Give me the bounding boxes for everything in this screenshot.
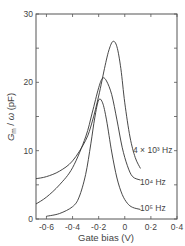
x-tick-label: -0·4 xyxy=(65,222,80,232)
plot-frame: -0·6-0·4-0·200·20·40102030 xyxy=(24,9,184,232)
series-label: 10⁴ Hz xyxy=(140,177,166,187)
x-tick-label: 0 xyxy=(122,222,127,232)
plot-border xyxy=(36,14,177,219)
x-tick-label: -0·2 xyxy=(91,222,106,232)
y-tick-label: 10 xyxy=(24,146,34,156)
y-axis-label: Gm / ω (pF) xyxy=(5,93,17,141)
y-tick-label: 0 xyxy=(28,214,33,224)
x-tick-label: 0·2 xyxy=(145,222,158,232)
y-tick-label: 20 xyxy=(24,77,34,87)
chart: -0·6-0·4-0·200·20·40102030 4 × 10³ Hz10⁴… xyxy=(0,0,185,246)
curve-labels: 4 × 10³ Hz10⁴ Hz10⁵ Hz xyxy=(133,145,172,213)
svg-text:Gm / ω (pF): Gm / ω (pF) xyxy=(5,93,17,141)
series-label: 4 × 10³ Hz xyxy=(133,145,172,155)
curves xyxy=(36,41,140,216)
x-tick-label: -0·6 xyxy=(39,222,54,232)
series-label: 10⁵ Hz xyxy=(140,203,166,213)
series-line xyxy=(36,78,140,204)
y-tick-label: 30 xyxy=(24,9,34,19)
x-axis-label: Gate bias (V) xyxy=(78,232,134,243)
x-tick-label: 0·4 xyxy=(171,222,184,232)
